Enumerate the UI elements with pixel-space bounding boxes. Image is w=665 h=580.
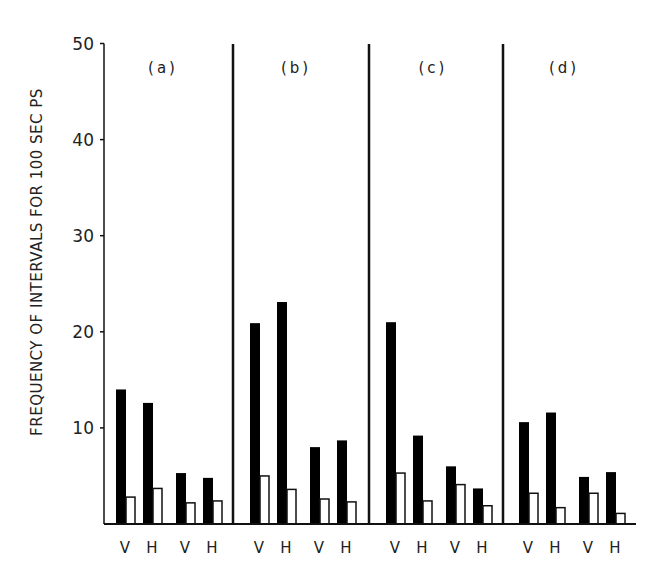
bar-open bbox=[616, 513, 625, 524]
bar-filled bbox=[579, 477, 589, 524]
panel-label: (b) bbox=[281, 59, 311, 77]
category-label: H bbox=[476, 539, 487, 557]
category-label: V bbox=[314, 539, 325, 557]
bar-open bbox=[529, 493, 538, 524]
panel-label: (c) bbox=[419, 59, 448, 77]
y-tick-label: 50 bbox=[72, 34, 94, 54]
bar-open bbox=[456, 485, 465, 524]
bar-filled bbox=[546, 413, 556, 524]
bar-filled bbox=[250, 323, 260, 524]
bar-filled bbox=[413, 436, 423, 524]
y-tick-label: 40 bbox=[72, 130, 94, 150]
y-tick-label: 20 bbox=[72, 322, 94, 342]
category-label: V bbox=[523, 539, 534, 557]
bar-filled bbox=[386, 322, 396, 524]
category-label: H bbox=[340, 539, 351, 557]
bar-filled bbox=[143, 403, 153, 524]
bar-open bbox=[347, 502, 356, 524]
grouped-bar-chart: FREQUENCY OF INTERVALS FOR 100 SEC PS 10… bbox=[0, 0, 665, 580]
bar-open bbox=[287, 489, 296, 524]
bar-filled bbox=[203, 478, 213, 524]
bar-filled bbox=[277, 302, 287, 524]
bar-open bbox=[260, 476, 269, 524]
panel-b: (b)VHVH bbox=[250, 59, 356, 557]
category-label: V bbox=[120, 539, 131, 557]
bar-open bbox=[589, 493, 598, 524]
panel-a: (a)VHVH bbox=[116, 59, 222, 557]
category-label: H bbox=[280, 539, 291, 557]
bar-filled bbox=[116, 389, 126, 524]
category-label: H bbox=[609, 539, 620, 557]
category-label: H bbox=[146, 539, 157, 557]
y-tick-label: 10 bbox=[72, 418, 94, 438]
bar-filled bbox=[606, 472, 616, 524]
panel-label: (a) bbox=[148, 59, 178, 77]
category-label: V bbox=[583, 539, 594, 557]
bar-filled bbox=[337, 440, 347, 524]
bar-open bbox=[423, 501, 432, 524]
panel-c: (c)VHVH bbox=[386, 59, 492, 557]
panels: (a)VHVH(b)VHVH(c)VHVH(d)VHVH bbox=[116, 59, 625, 557]
category-label: H bbox=[549, 539, 560, 557]
bar-filled bbox=[519, 422, 529, 524]
y-axis: 1020304050 bbox=[72, 34, 104, 525]
bar-open bbox=[213, 501, 222, 524]
y-axis-label: FREQUENCY OF INTERVALS FOR 100 SEC PS bbox=[28, 88, 46, 436]
panel-dividers bbox=[233, 44, 503, 524]
category-label: V bbox=[254, 539, 265, 557]
bar-open bbox=[320, 499, 329, 524]
category-label: V bbox=[450, 539, 461, 557]
bar-filled bbox=[310, 447, 320, 524]
category-label: V bbox=[180, 539, 191, 557]
bar-filled bbox=[446, 466, 456, 524]
y-tick-label: 30 bbox=[72, 226, 94, 246]
category-label: H bbox=[416, 539, 427, 557]
bar-filled bbox=[473, 488, 483, 524]
panel-d: (d)VHVH bbox=[519, 59, 625, 557]
bar-open bbox=[126, 497, 135, 524]
bar-open bbox=[396, 473, 405, 524]
bar-open bbox=[153, 488, 162, 524]
y-axis-title: FREQUENCY OF INTERVALS FOR 100 SEC PS bbox=[28, 88, 46, 436]
category-label: V bbox=[390, 539, 401, 557]
bar-open bbox=[556, 508, 565, 524]
bar-filled bbox=[176, 473, 186, 524]
category-label: H bbox=[206, 539, 217, 557]
bar-open bbox=[186, 503, 195, 524]
bar-open bbox=[483, 506, 492, 524]
panel-label: (d) bbox=[549, 59, 579, 77]
